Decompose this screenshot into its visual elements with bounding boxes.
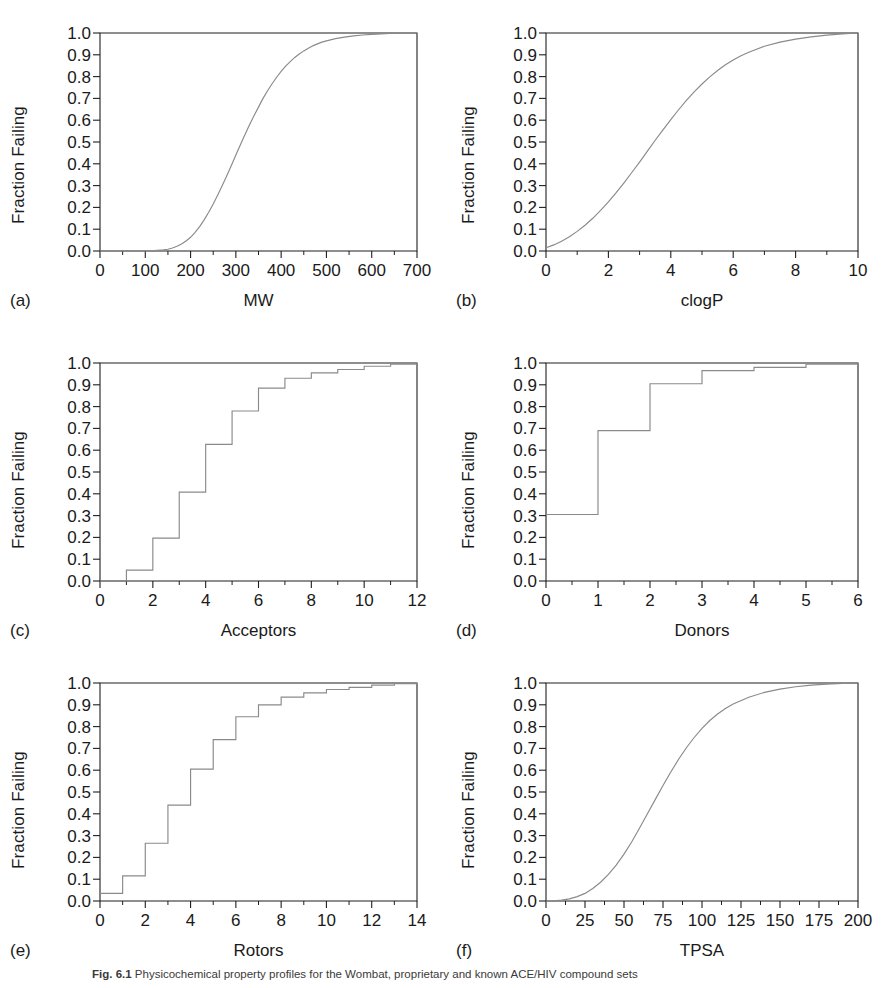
panel-f-xlabel: TPSA	[546, 941, 858, 961]
panel-e-xtick-labels: 02468101214	[0, 912, 431, 934]
panel-a-xtick-400: 400	[267, 262, 295, 279]
panel-f-xtick-75: 75	[654, 912, 673, 929]
panel-e-inner: Fraction Failing 0.00.10.20.30.40.50.60.…	[0, 650, 450, 970]
panel-a-xtick-200: 200	[176, 262, 204, 279]
panel-c-xtick-6: 6	[254, 592, 263, 609]
panel-b-letter: (b)	[456, 291, 477, 311]
panel-d-xtick-6: 6	[853, 592, 862, 609]
panel-c-xtick-10: 10	[355, 592, 374, 609]
panel-c-xtick-0: 0	[95, 592, 104, 609]
panel-f-xtick-50: 50	[615, 912, 634, 929]
panel-f-xtick-125: 125	[727, 912, 755, 929]
panel-d-xlabel: Donors	[546, 621, 858, 641]
panel-f-xtick-150: 150	[766, 912, 794, 929]
panel-b: Fraction Failing 0.00.10.20.30.40.50.60.…	[450, 0, 895, 330]
panel-f-xtick-200: 200	[844, 912, 872, 929]
panel-e-letter: (e)	[10, 941, 31, 961]
panel-a-xtick-labels: 0100200300400500600700	[0, 262, 431, 284]
panel-d-letter: (d)	[456, 621, 477, 641]
panel-e-xtick-0: 0	[95, 912, 104, 929]
panel-b-plot	[450, 0, 872, 277]
panel-e-xtick-4: 4	[186, 912, 195, 929]
panel-c-xtick-8: 8	[307, 592, 316, 609]
caption-text: Physicochemical property profiles for th…	[135, 968, 638, 980]
panel-d-xtick-1: 1	[593, 592, 602, 609]
figure-caption: Fig. 6.1 Physicochemical property profil…	[92, 966, 882, 986]
panel-c-xtick-labels: 024681012	[0, 592, 431, 614]
panel-d: Fraction Failing 0.00.10.20.30.40.50.60.…	[450, 330, 895, 650]
panel-f-xtick-25: 25	[576, 912, 595, 929]
panel-b-xtick-labels: 0246810	[450, 262, 872, 284]
panel-c-xtick-12: 12	[408, 592, 427, 609]
panel-d-xtick-3: 3	[697, 592, 706, 609]
panel-f-plot	[450, 650, 872, 927]
panel-a-xtick-0: 0	[95, 262, 104, 279]
panel-c: Fraction Failing 0.00.10.20.30.40.50.60.…	[0, 330, 450, 650]
panel-c-xlabel: Acceptors	[100, 621, 417, 641]
panel-d-xtick-4: 4	[749, 592, 758, 609]
panel-f-xtick-175: 175	[805, 912, 833, 929]
panel-b-inner: Fraction Failing 0.00.10.20.30.40.50.60.…	[450, 0, 895, 330]
panel-c-plot	[0, 330, 431, 607]
panel-b-xtick-0: 0	[541, 262, 550, 279]
panel-b-xlabel: clogP	[546, 291, 858, 311]
panel-e-xtick-12: 12	[362, 912, 381, 929]
panel-e-xtick-2: 2	[141, 912, 150, 929]
panel-f-xtick-0: 0	[541, 912, 550, 929]
panel-a-xtick-100: 100	[131, 262, 159, 279]
panel-e-xlabel: Rotors	[100, 941, 417, 961]
panel-a-letter: (a)	[10, 291, 31, 311]
panel-e-plot	[0, 650, 431, 927]
panel-a-xtick-700: 700	[403, 262, 431, 279]
panel-d-xtick-labels: 0123456	[450, 592, 872, 614]
panel-a-xlabel: MW	[100, 291, 417, 311]
panel-f-xtick-100: 100	[688, 912, 716, 929]
panel-b-xtick-4: 4	[666, 262, 675, 279]
panel-e-xtick-14: 14	[408, 912, 427, 929]
panel-f-letter: (f)	[456, 941, 472, 961]
panel-f: Fraction Failing 0.00.10.20.30.40.50.60.…	[450, 650, 895, 970]
panel-b-xtick-10: 10	[849, 262, 868, 279]
panel-d-inner: Fraction Failing 0.00.10.20.30.40.50.60.…	[450, 330, 895, 650]
panel-a-xtick-600: 600	[358, 262, 386, 279]
panel-e-xtick-10: 10	[317, 912, 336, 929]
panel-b-xtick-2: 2	[604, 262, 613, 279]
panel-d-xtick-0: 0	[541, 592, 550, 609]
panel-a: Fraction Failing 0.00.10.20.30.40.50.60.…	[0, 0, 450, 330]
caption-label: Fig. 6.1	[92, 968, 132, 980]
panel-a-xtick-500: 500	[312, 262, 340, 279]
panel-c-xtick-2: 2	[148, 592, 157, 609]
panel-d-xtick-5: 5	[801, 592, 810, 609]
panel-e-xtick-8: 8	[276, 912, 285, 929]
panel-d-plot	[450, 330, 872, 607]
panel-c-letter: (c)	[10, 621, 30, 641]
figure-grid: Fraction Failing 0.00.10.20.30.40.50.60.…	[0, 0, 895, 988]
panel-d-xtick-2: 2	[645, 592, 654, 609]
panel-b-xtick-6: 6	[728, 262, 737, 279]
panel-e: Fraction Failing 0.00.10.20.30.40.50.60.…	[0, 650, 450, 970]
panel-f-inner: Fraction Failing 0.00.10.20.30.40.50.60.…	[450, 650, 895, 970]
panel-a-xtick-300: 300	[222, 262, 250, 279]
panel-a-inner: Fraction Failing 0.00.10.20.30.40.50.60.…	[0, 0, 450, 330]
panel-b-xtick-8: 8	[791, 262, 800, 279]
panel-c-xtick-4: 4	[201, 592, 210, 609]
panel-a-plot	[0, 0, 431, 277]
panel-c-inner: Fraction Failing 0.00.10.20.30.40.50.60.…	[0, 330, 450, 650]
panel-f-xtick-labels: 0255075100125150175200	[450, 912, 872, 934]
panel-e-xtick-6: 6	[231, 912, 240, 929]
